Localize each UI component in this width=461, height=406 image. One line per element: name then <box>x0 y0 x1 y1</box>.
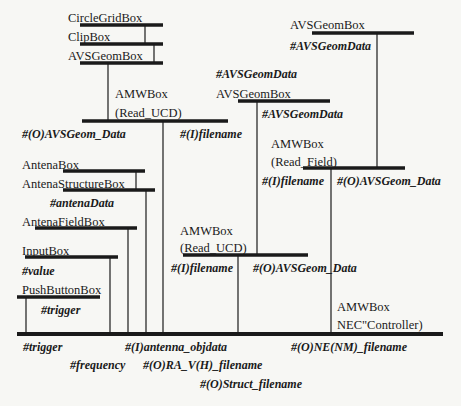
antenabox-label: AntenaBox <box>22 158 79 172</box>
amw-read-ucd-top-sub: (Read_UCD) <box>115 106 182 120</box>
port-i-antenna-objdata: #(I)antenna_objdata <box>125 340 227 354</box>
amw-read-field-sub: (Read_Field) <box>271 155 337 169</box>
port-i-filename-mid: #(I)filename <box>171 261 233 275</box>
inputbox-label: InputBox <box>22 244 69 258</box>
port-o-avsgeom-data-mid: #(O)AVSGeom_Data <box>253 261 357 275</box>
port-o-struct-filename: #(O)Struct_filename <box>200 377 302 391</box>
avsgeombox-middle-label: AVSGeomBox <box>216 87 291 101</box>
amw-nec-controller-sub: NEC"Controller) <box>337 318 423 332</box>
avsgeombox-right-label: AVSGeomBox <box>290 18 365 32</box>
module-network-diagram: CircleGridBox ClipBox AVSGeomBox AMWBox … <box>0 0 461 406</box>
port-antenadata: #antenaData <box>50 196 114 210</box>
port-trigger-push: #trigger <box>41 303 80 317</box>
circlegridbox-label: CircleGridBox <box>68 11 142 25</box>
port-o-avsgeom-data-top: #(O)AVSGeom_Data <box>22 127 126 141</box>
amw-nec-controller-label: AMWBox <box>337 300 390 314</box>
port-frequency: #frequency <box>70 358 125 372</box>
port-i-filename-field: #(I)filename <box>262 174 324 188</box>
port-value: #value <box>22 264 55 278</box>
port-o-ne-nm-filename: #(O)NE(NM)_filename <box>291 340 407 354</box>
port-avsgeomdata-right: #AVSGeomData <box>290 39 371 53</box>
amw-read-ucd-mid-sub: (Read_UCD) <box>180 241 247 255</box>
amw-read-field-label: AMWBox <box>271 137 324 151</box>
port-o-ra-vh-filename: #(O)RA_V(H)_filename <box>143 358 262 372</box>
port-trigger-bottom: #trigger <box>23 340 62 354</box>
amw-read-ucd-top-label: AMWBox <box>115 87 168 101</box>
amw-read-ucd-mid-label: AMWBox <box>180 224 233 238</box>
clipbox-label: ClipBox <box>68 30 110 44</box>
port-o-avsgeom-data-field: #(O)AVSGeom_Data <box>337 174 441 188</box>
antenastructurebox-label: AntenaStructureBox <box>22 177 125 191</box>
port-i-filename-top: #(I)filename <box>180 127 242 141</box>
port-avsgeomdata-middle-below: #AVSGeomData <box>262 107 343 121</box>
avsgeombox-left-label: AVSGeomBox <box>68 49 143 63</box>
pushbuttonbox-label: PushButtonBox <box>22 283 101 297</box>
antenafieldbox-label: AntenaFieldBox <box>22 215 105 229</box>
port-avsgeomdata-middle-above: #AVSGeomData <box>216 67 297 81</box>
